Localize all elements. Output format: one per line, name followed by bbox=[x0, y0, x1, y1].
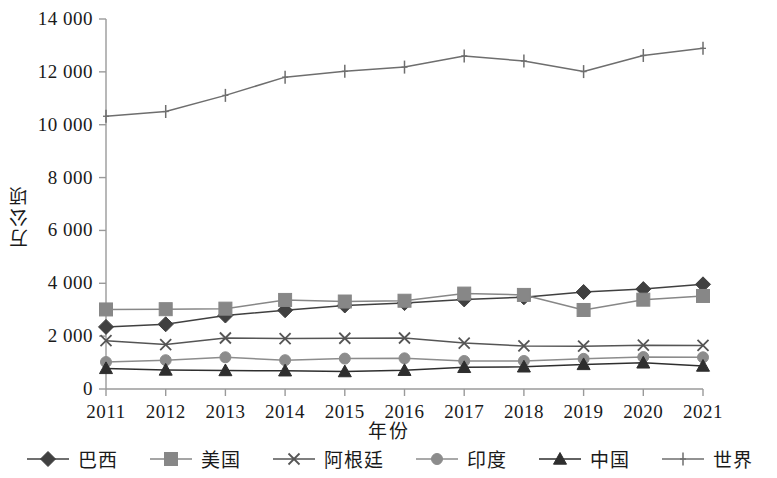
chart-container: 万公顷 年份 02 0004 0006 0008 00010 00012 000… bbox=[0, 0, 777, 478]
legend-item-2[interactable]: 阿根廷 bbox=[271, 445, 384, 472]
legend-item-label: 阿根廷 bbox=[324, 445, 384, 472]
x-axis-ticks bbox=[106, 389, 703, 396]
data-point-marker bbox=[700, 42, 706, 55]
legend-item-4[interactable]: 中国 bbox=[537, 445, 630, 472]
data-point-marker bbox=[159, 303, 172, 316]
y-axis-tick-label: 8 000 bbox=[0, 167, 93, 189]
x-axis-tick-label: 2018 bbox=[504, 401, 544, 423]
legend-item-label: 世界 bbox=[713, 445, 753, 472]
x-axis-tick-label: 2015 bbox=[325, 401, 365, 423]
legend-item-label: 美国 bbox=[201, 445, 241, 472]
legend-marker-plus-icon bbox=[660, 450, 706, 468]
chart-legend: 巴西美国阿根廷印度中国世界 bbox=[0, 445, 777, 472]
series-2 bbox=[101, 332, 709, 351]
legend-item-3[interactable]: 印度 bbox=[414, 445, 507, 472]
data-point-marker bbox=[680, 452, 686, 465]
y-axis-tick-label: 0 bbox=[0, 378, 93, 400]
x-axis-tick-label: 2016 bbox=[385, 401, 425, 423]
legend-item-label: 印度 bbox=[467, 445, 507, 472]
y-axis-tick-label: 6 000 bbox=[0, 219, 93, 241]
axis-lines bbox=[106, 19, 703, 389]
y-axis-tick-label: 2 000 bbox=[0, 325, 93, 347]
data-point-marker bbox=[637, 293, 650, 306]
data-point-marker bbox=[576, 285, 591, 300]
x-axis-tick-label: 2020 bbox=[623, 401, 663, 423]
legend-item-label: 中国 bbox=[590, 445, 630, 472]
data-point-marker bbox=[521, 55, 527, 68]
legend-marker-triangle-icon bbox=[537, 450, 583, 468]
legend-item-5[interactable]: 世界 bbox=[660, 445, 753, 472]
series-5 bbox=[103, 42, 706, 123]
x-axis-tick-label: 2013 bbox=[205, 401, 245, 423]
data-point-marker bbox=[103, 110, 109, 123]
data-point-marker bbox=[338, 295, 351, 308]
series-1 bbox=[100, 287, 710, 316]
x-axis-tick-label: 2012 bbox=[146, 401, 186, 423]
x-axis-tick-label: 2021 bbox=[683, 401, 723, 423]
y-axis-tick-label: 4 000 bbox=[0, 272, 93, 294]
series-line bbox=[106, 48, 703, 116]
data-point-marker bbox=[279, 293, 292, 306]
legend-marker-circle-icon bbox=[414, 450, 460, 468]
data-point-marker bbox=[99, 319, 114, 334]
data-point-marker bbox=[220, 352, 231, 363]
x-axis-tick-label: 2019 bbox=[564, 401, 604, 423]
data-point-marker bbox=[222, 89, 228, 102]
data-point-marker bbox=[577, 303, 590, 316]
data-point-marker bbox=[431, 453, 442, 464]
legend-marker-square-icon bbox=[148, 450, 194, 468]
data-point-marker bbox=[398, 294, 411, 307]
legend-item-label: 巴西 bbox=[78, 445, 118, 472]
y-axis-tick-label: 12 000 bbox=[0, 61, 93, 83]
data-point-marker bbox=[163, 105, 169, 118]
legend-marker-x-icon bbox=[271, 450, 317, 468]
data-point-marker bbox=[581, 65, 587, 78]
legend-item-1[interactable]: 美国 bbox=[148, 445, 241, 472]
legend-marker-diamond-icon bbox=[25, 450, 71, 468]
data-point-marker bbox=[219, 302, 232, 315]
data-point-marker bbox=[640, 49, 646, 62]
data-point-marker bbox=[339, 353, 350, 364]
data-point-marker bbox=[158, 317, 173, 332]
data-point-marker bbox=[399, 353, 410, 364]
data-point-marker bbox=[164, 452, 177, 465]
data-point-marker bbox=[402, 61, 408, 74]
x-axis-tick-label: 2011 bbox=[86, 401, 125, 423]
data-point-marker bbox=[40, 451, 55, 466]
data-point-marker bbox=[100, 303, 113, 316]
data-point-marker bbox=[342, 65, 348, 78]
x-axis-tick-label: 2014 bbox=[265, 401, 305, 423]
legend-item-0[interactable]: 巴西 bbox=[25, 445, 118, 472]
y-axis-tick-label: 14 000 bbox=[0, 8, 93, 30]
data-point-marker bbox=[458, 287, 471, 300]
data-point-marker bbox=[517, 288, 530, 301]
data-point-marker bbox=[461, 50, 467, 63]
data-point-marker bbox=[282, 71, 288, 84]
y-axis-tick-label: 10 000 bbox=[0, 114, 93, 136]
x-axis-tick-label: 2017 bbox=[444, 401, 484, 423]
data-point-marker bbox=[697, 289, 710, 302]
